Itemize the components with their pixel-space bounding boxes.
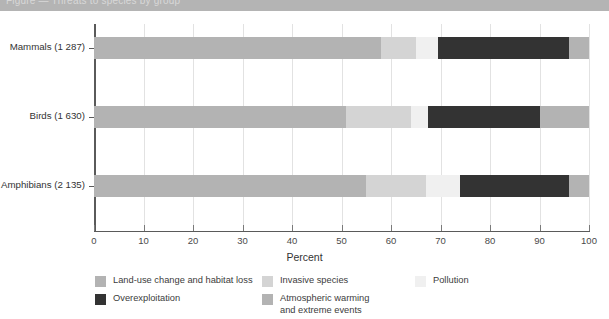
bar-segment (94, 37, 381, 59)
x-axis-tick-label: 100 (581, 235, 597, 246)
x-axis-tick (589, 225, 590, 231)
x-axis-tick (292, 225, 293, 231)
window-title: Figure — Threats to species by group (6, 0, 180, 6)
chart-container: 0102030405060708090100 Mammals (1 287)Bi… (0, 11, 609, 319)
bar-row: Birds (1 630) (0, 106, 609, 128)
bar-segment (94, 175, 366, 197)
bar-row: Amphibians (2 135) (0, 175, 609, 197)
x-axis-tick (441, 225, 442, 231)
x-axis-tick (391, 225, 392, 231)
x-axis-title: Percent (0, 251, 609, 263)
bar-segment (569, 37, 589, 59)
window-titlebar: Figure — Threats to species by group (0, 0, 609, 11)
category-label: Amphibians (2 135) (1, 179, 85, 190)
category-label: Mammals (1 287) (10, 41, 85, 52)
stacked-bar (94, 37, 589, 59)
x-axis-tick-label: 60 (386, 235, 397, 246)
bar-segment (381, 37, 416, 59)
legend-swatch (262, 294, 273, 305)
bar-segment (460, 175, 569, 197)
x-axis-tick-label: 10 (138, 235, 149, 246)
x-axis-tick-label: 30 (237, 235, 248, 246)
legend-label: Pollution (433, 275, 469, 287)
x-axis-tick-label: 20 (188, 235, 199, 246)
legend-item[interactable]: Pollution (415, 275, 469, 287)
bar-segment (416, 37, 438, 59)
bar-segment (346, 106, 410, 128)
x-axis-tick-label: 40 (287, 235, 298, 246)
bar-segment (540, 106, 590, 128)
legend-item[interactable]: Atmospheric warming and extreme events (262, 293, 369, 316)
bar-segment (438, 37, 569, 59)
legend-swatch (415, 276, 426, 287)
category-label: Birds (1 630) (30, 110, 85, 121)
legend-swatch (262, 276, 273, 287)
x-axis-tick-label: 70 (435, 235, 446, 246)
stacked-bar (94, 175, 589, 197)
x-axis-tick (540, 225, 541, 231)
x-axis-tick-label: 50 (336, 235, 347, 246)
x-axis-tick (243, 225, 244, 231)
x-axis-tick-label: 80 (485, 235, 496, 246)
x-axis-tick (94, 225, 95, 231)
x-axis-tick-label: 90 (534, 235, 545, 246)
bar-segment (366, 175, 425, 197)
bar-segment (411, 106, 428, 128)
legend-label: Overexploitation (113, 293, 180, 305)
legend-swatch (95, 276, 106, 287)
bar-segment (426, 175, 461, 197)
x-axis-tick (193, 225, 194, 231)
legend-label: Land-use change and habitat loss (113, 275, 253, 287)
legend-swatch (95, 294, 106, 305)
legend-item[interactable]: Invasive species (262, 275, 348, 287)
legend-label: Invasive species (280, 275, 348, 287)
legend-item[interactable]: Land-use change and habitat loss (95, 275, 253, 287)
legend-item[interactable]: Overexploitation (95, 293, 180, 305)
bar-segment (428, 106, 539, 128)
x-axis-tick-label: 0 (91, 235, 96, 246)
bar-segment (94, 106, 346, 128)
x-axis-line (94, 231, 590, 232)
x-axis-tick (144, 225, 145, 231)
x-axis-tick (490, 225, 491, 231)
bar-segment (569, 175, 589, 197)
chart-legend: Land-use change and habitat lossOverexpl… (0, 273, 609, 319)
legend-label: Atmospheric warming and extreme events (280, 293, 369, 316)
bar-row: Mammals (1 287) (0, 37, 609, 59)
stacked-bar (94, 106, 589, 128)
x-axis-tick (342, 225, 343, 231)
